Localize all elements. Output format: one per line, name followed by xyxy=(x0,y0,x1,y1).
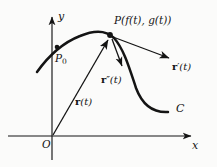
point-p-dot xyxy=(107,32,113,38)
acceleration-vector-label: r″(t) xyxy=(101,75,122,85)
point-p0-subscript: 0 xyxy=(62,57,67,66)
point-p-label: P(f(t), g(t)) xyxy=(114,15,171,26)
point-p0-label: P0 xyxy=(55,53,67,66)
vector-function-diagram: y x O P(f(t), g(t)) P0 C r(t) r′(t) r″(t… xyxy=(0,0,217,167)
velocity-vector-label: r′(t) xyxy=(172,62,191,72)
position-vector-label: r(t) xyxy=(75,97,92,107)
acceleration-vector-argument: (t) xyxy=(110,74,122,85)
point-p0-dot xyxy=(55,45,60,50)
curve-label: C xyxy=(176,103,184,114)
x-axis-label: x xyxy=(192,140,198,151)
velocity-vector-argument: (t) xyxy=(179,61,191,72)
y-axis-label: y xyxy=(58,11,64,22)
position-vector-argument: (t) xyxy=(80,96,92,107)
origin-label: O xyxy=(42,139,51,150)
curve-c xyxy=(37,32,168,112)
